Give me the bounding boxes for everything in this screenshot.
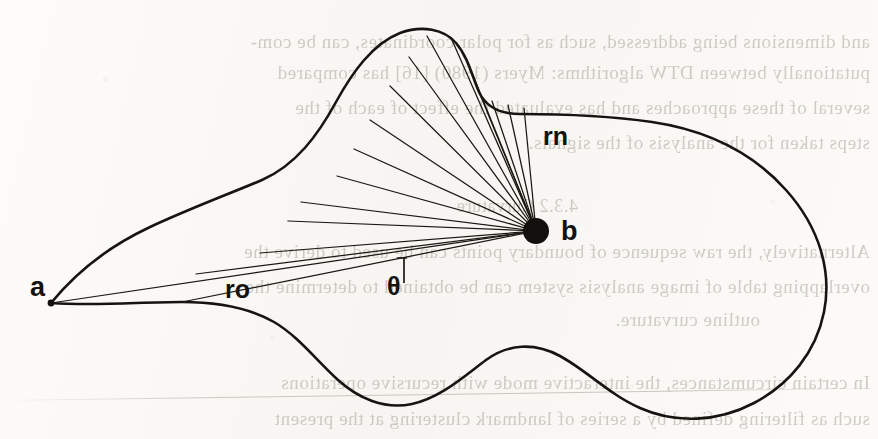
radial-ray xyxy=(337,176,536,231)
radial-ray xyxy=(427,36,536,231)
point-a-dot xyxy=(48,300,55,307)
label-point-a: a xyxy=(30,272,45,303)
radial-ray xyxy=(354,149,536,231)
shape-outline-group xyxy=(51,29,826,419)
scanned-page: and dimensions being addressed, such as … xyxy=(0,0,878,439)
radial-ray xyxy=(196,231,536,274)
radial-rays-group xyxy=(51,36,536,303)
label-point-b: b xyxy=(561,216,578,247)
point-b-dot xyxy=(523,218,549,244)
label-angle-theta: θ xyxy=(387,272,401,301)
radial-ray xyxy=(390,86,536,231)
shape-outline-path xyxy=(51,29,826,419)
contour-figure xyxy=(0,0,878,439)
label-radius-rn: rn xyxy=(543,122,568,151)
radial-ray xyxy=(260,231,536,253)
label-radius-r0: ro xyxy=(225,275,250,304)
